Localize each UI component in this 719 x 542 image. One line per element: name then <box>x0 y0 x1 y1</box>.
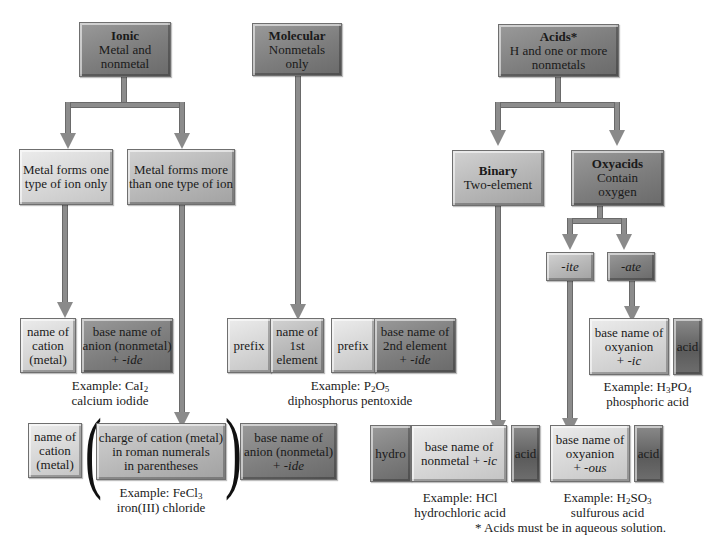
arrow-down-icon <box>57 302 73 318</box>
cation-line2: cation <box>39 444 71 458</box>
plus: + <box>617 353 628 368</box>
second-line2: 2nd element <box>383 339 447 353</box>
example-h3po4: Example: H3PO4 phosphoric acid <box>590 379 705 409</box>
example-h2so3: Example: H2SO3 sulfurous acid <box>550 490 665 520</box>
acids-desc-1: H and one or more <box>510 44 607 58</box>
arrow-down-icon <box>60 133 76 149</box>
cation-line1: name of <box>27 325 69 339</box>
anion-line2: anion (nonmetal) <box>244 445 333 459</box>
suffix-ic: -ic <box>627 353 641 368</box>
example-formula: Example: HCl <box>405 490 515 505</box>
acid-box-ate: acid <box>673 318 702 375</box>
prefix-label: prefix <box>233 339 264 353</box>
acids-desc-2: nonmetals <box>532 58 585 72</box>
acid-label: acid <box>515 447 537 461</box>
charge-line1: charge of cation (metal) <box>99 431 223 445</box>
acids-node: Acids* H and one or more nonmetals <box>498 24 619 77</box>
oxyanion-line1: base name of <box>595 326 664 340</box>
ite-label: -ite <box>561 260 578 274</box>
acid-box-binary: acid <box>511 425 540 482</box>
cation-line3: (metal) <box>29 353 67 367</box>
oxyacids-title: Oxyacids <box>592 157 643 171</box>
hydro-label: hydro <box>375 447 405 461</box>
plus: + <box>400 352 411 367</box>
formula-part: H <box>657 379 666 394</box>
oxyanion-line2: oxyanion <box>605 340 653 354</box>
second-element-box: base name of 2nd element + -ide <box>374 318 456 373</box>
anion-line1: base name of <box>254 431 323 445</box>
cation-line1: name of <box>34 430 76 444</box>
anion-line1: base name of <box>93 325 162 339</box>
suffix-ic: -ic <box>483 453 497 468</box>
example-p2o5: Example: P2O5 diphosphorus pentoxide <box>270 378 430 408</box>
connector <box>65 102 71 135</box>
acid-box-ite: acid <box>634 425 663 482</box>
anion-line2: anion (nonmetal) <box>82 339 171 353</box>
connector <box>567 218 627 224</box>
connector <box>567 280 573 420</box>
metal-one-ion-node: Metal forms one type of ion only <box>19 149 113 205</box>
ionic-desc-1: Metal and <box>99 43 151 57</box>
molecular-title: Molecular <box>268 29 325 43</box>
nonmetal-line2: nonmetal + -ic <box>421 454 497 468</box>
connector <box>295 76 301 308</box>
binary-desc: Two-element <box>464 178 532 192</box>
example-fecl3: Example: FeCl3 iron(III) chloride <box>96 485 226 515</box>
connector <box>179 102 185 135</box>
ionic-desc-2: nonmetal <box>101 57 149 71</box>
oxyanion-ous-box: base name of oxyanion + -ous <box>550 425 630 482</box>
formula-part: FeCl <box>173 485 198 500</box>
oxyanion-line2: oxyanion <box>566 447 614 461</box>
oxyanion-line3: + -ic <box>617 354 641 368</box>
plus: + <box>112 352 123 367</box>
example-name: calcium iodide <box>40 393 180 408</box>
example-formula: Example: CaI2 <box>40 378 180 393</box>
ite-suffix-box: -ite <box>546 252 594 281</box>
formula-part: CaI <box>125 378 144 393</box>
nonmetal-ic-box: base name of nonmetal + -ic <box>411 425 507 482</box>
oxyanion-line1: base name of <box>556 433 625 447</box>
anion-base-box-2: base name of anion (nonmetal) + -ide <box>240 423 337 480</box>
arrow-down-icon <box>616 234 632 250</box>
arrow-down-icon <box>609 130 625 146</box>
example-label: Example: <box>72 378 125 393</box>
cation-line2: cation <box>32 339 64 353</box>
prefix-box-2: prefix <box>331 318 375 373</box>
ate-suffix-box: -ate <box>607 252 655 281</box>
molecular-desc-2: only <box>285 57 308 71</box>
example-formula: Example: FeCl3 <box>96 485 226 500</box>
oxyanion-ic-box: base name of oxyanion + -ic <box>589 318 669 375</box>
charge-line2: in roman numerals <box>112 445 209 459</box>
formula-part: SO <box>630 490 647 505</box>
example-name: sulfurous acid <box>550 505 665 520</box>
molecular-node: Molecular Nonmetals only <box>252 23 342 76</box>
suffix-ide: -ide <box>284 458 304 473</box>
example-label: Example: <box>311 378 364 393</box>
formula-subscript: 3 <box>647 496 652 506</box>
connector <box>495 205 501 425</box>
arrow-down-icon <box>174 133 190 149</box>
example-name: hydrochloric acid <box>405 505 515 520</box>
example-label: Example: <box>120 485 173 500</box>
formula-part: H <box>617 490 626 505</box>
nonmetal-line1: base name of <box>425 440 494 454</box>
formula-part: O <box>375 378 384 393</box>
first-line2: 1st <box>289 339 304 353</box>
plus: + <box>273 458 284 473</box>
acid-label: acid <box>638 447 660 461</box>
ionic-title: Ionic <box>111 29 139 43</box>
molecular-desc-1: Nonmetals <box>269 43 325 57</box>
example-name: diphosphorus pentoxide <box>270 393 430 408</box>
footnote: * Acids must be in aqueous solution. <box>475 520 666 536</box>
connector <box>495 102 501 132</box>
first-line3: element <box>276 353 317 367</box>
ate-label: -ate <box>621 260 641 274</box>
example-name: iron(III) chloride <box>96 500 226 515</box>
second-line1: base name of <box>381 325 450 339</box>
oxyanion-line3: + -ous <box>574 461 607 475</box>
oxyacids-desc-1: Contain <box>597 171 638 185</box>
prefix-label: prefix <box>337 339 368 353</box>
connector <box>62 204 68 304</box>
oxyacids-node: Oxyacids Contain oxygen <box>571 150 664 206</box>
plus: + <box>574 460 585 475</box>
